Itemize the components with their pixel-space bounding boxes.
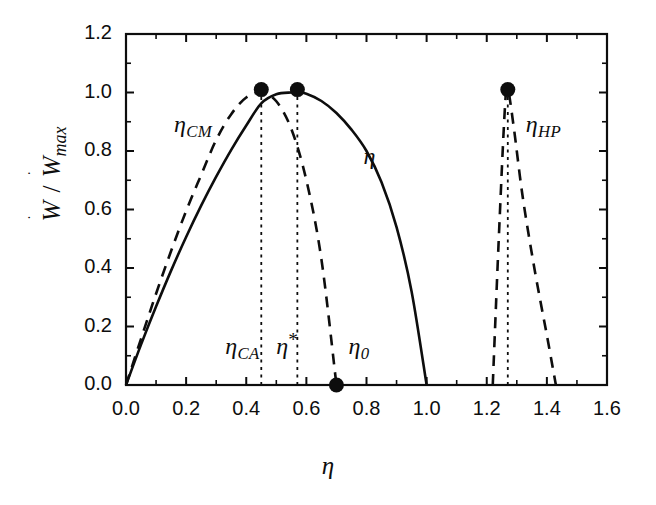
eta-zero-label: η0: [348, 333, 369, 360]
marker-eta-zero-point: [329, 378, 344, 393]
x-tick-label-4: 0.8: [337, 397, 397, 420]
x-tick-label-6: 1.2: [457, 397, 517, 420]
x-tick-label-3: 0.6: [276, 397, 336, 420]
marker-eta-HP-peak: [500, 82, 515, 97]
eta-cm-label: ηCM: [174, 111, 212, 138]
y-tick-label-2: 0.4: [50, 255, 112, 278]
x-axis-title: η: [0, 452, 656, 480]
x-tick-label-5: 1.0: [397, 397, 457, 420]
eta-star-label: η*: [276, 333, 298, 360]
y-tick-label-3: 0.6: [50, 197, 112, 220]
x-tick-label-7: 1.4: [517, 397, 577, 420]
chart-plot-area: [0, 0, 656, 505]
y-tick-label-5: 1.0: [50, 80, 112, 103]
x-tick-label-1: 0.2: [156, 397, 216, 420]
x-tick-label-8: 1.6: [577, 397, 637, 420]
y-tick-label-0: 0.0: [50, 372, 112, 395]
figure-canvas: Ẇ / Ẇmax η 0.00.20.40.60.81.01.21.41.6…: [0, 0, 656, 505]
marker-eta-star-peak: [290, 82, 305, 97]
y-tick-label-1: 0.2: [50, 314, 112, 337]
x-tick-label-2: 0.4: [216, 397, 276, 420]
marker-eta-CA-peak: [254, 82, 269, 97]
eta-ca-label: ηCA: [225, 333, 259, 360]
eta-label: η: [363, 143, 375, 170]
x-tick-label-0: 0.0: [96, 397, 156, 420]
y-tick-label-6: 1.2: [50, 21, 112, 44]
y-tick-label-4: 0.8: [50, 138, 112, 161]
eta-hp-label: ηHP: [526, 111, 561, 138]
